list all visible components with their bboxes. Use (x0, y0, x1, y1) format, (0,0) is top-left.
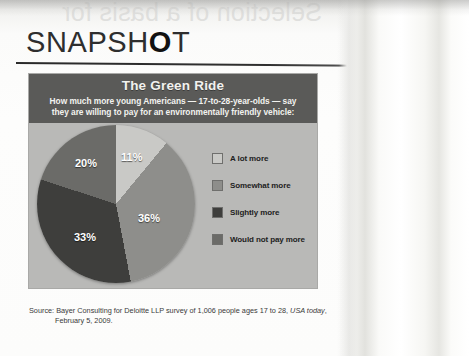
pie-slice-value-a-lot-more: 11% (121, 151, 142, 163)
legend-swatch-icon-would-not-pay-more (212, 234, 223, 245)
page-top-shadow (0, 0, 469, 16)
chart-title: The Green Ride (29, 78, 317, 93)
page-curl-shadow (337, 0, 357, 356)
legend-item-a-lot-more: A lot more (212, 147, 312, 169)
chart-body: 11% 36% 33% 20% A lot more Somewhat more… (29, 123, 317, 288)
pie-slice-value-somewhat-more: 36% (138, 212, 160, 224)
legend-swatch-icon-slightly-more (212, 207, 223, 218)
chart-legend: A lot more Somewhat more Slightly more W… (212, 147, 312, 255)
pie-slice-value-would-not-pay-more: 20% (75, 157, 97, 169)
pie-graphic (37, 125, 195, 283)
source-citation: Source: Bayer Consulting for Deloitte LL… (29, 306, 349, 326)
legend-label-somewhat-more: Somewhat more (230, 181, 291, 190)
snapshot-chart-panel: The Green Ride How much more young Ameri… (29, 74, 317, 288)
legend-item-would-not-pay-more: Would not pay more (212, 228, 312, 250)
legend-item-somewhat-more: Somewhat more (212, 174, 312, 196)
legend-item-slightly-more: Slightly more (212, 201, 312, 223)
pie-chart: 11% 36% 33% 20% (37, 125, 203, 285)
legend-label-a-lot-more: A lot more (230, 154, 268, 163)
page-curl-edge (339, 0, 469, 356)
chart-subtitle-line-2: they are willing to pay for an environme… (29, 107, 317, 118)
page-title-suffix: T (172, 26, 190, 58)
legend-swatch-icon-somewhat-more (212, 180, 223, 191)
legend-swatch-icon-a-lot-more (212, 153, 223, 164)
legend-label-would-not-pay-more: Would not pay more (230, 235, 305, 244)
page-title: SNAPSHOT (26, 26, 190, 59)
page-title-accent-letter: O (149, 26, 172, 58)
source-line-1-prefix: Source: Bayer Consulting for Deloitte LL… (29, 306, 290, 315)
chart-subtitle: How much more young Americans — 17-to-28… (29, 96, 317, 118)
source-line-1: Source: Bayer Consulting for Deloitte LL… (29, 306, 349, 316)
chart-subtitle-line-1: How much more young Americans — 17-to-28… (29, 96, 317, 107)
chart-header-band: The Green Ride How much more young Ameri… (29, 74, 317, 123)
legend-label-slightly-more: Slightly more (230, 208, 279, 217)
pie-slice-value-slightly-more: 33% (74, 231, 96, 243)
source-line-1-suffix: , (325, 306, 327, 315)
heading-divider-rule (16, 62, 361, 67)
scanned-book-page: Selection of a basis for SNAPSHOT The Gr… (0, 0, 469, 356)
source-line-2: February 5, 2009. (29, 316, 349, 326)
page-title-prefix: SNAPSH (26, 26, 149, 58)
source-publication-name: USA today (290, 306, 325, 315)
